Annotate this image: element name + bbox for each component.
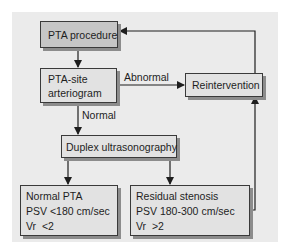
node-label-line-3: Vr <2 [26,219,117,234]
node-duplex-ultrasonography: Duplex ultrasonography [61,135,177,158]
node-normal-pta: Normal PTA PSV <180 cm/sec Vr <2 [20,185,118,236]
node-label: PTA procedure [48,28,117,42]
node-pta-site-arteriogram: PTA-site arteriogram [40,68,117,103]
node-label-line-3: Vr >2 [136,219,249,234]
node-label-line-2: arteriogram [48,86,116,100]
node-label-line-1: Normal PTA [26,189,117,204]
node-pta-procedure: PTA procedure [40,21,118,48]
node-reintervention: Reintervention [185,73,263,97]
node-label: Duplex ultrasonography [66,140,176,154]
node-label-line-2: PSV 180-300 cm/sec [136,204,249,219]
edge-label-normal: Normal [82,109,116,121]
arrow-reintervention-to-procedure [120,31,255,73]
node-label-line-2: PSV <180 cm/sec [26,204,117,219]
node-label-line-1: PTA-site [48,72,116,86]
edge-label-abnormal: Abnormal [124,71,169,83]
node-residual-stenosis: Residual stenosis PSV 180-300 cm/sec Vr … [130,185,250,236]
node-label-line-1: Residual stenosis [136,189,249,204]
arrow-residual-to-reintervention [250,97,255,210]
node-label: Reintervention [192,78,262,92]
